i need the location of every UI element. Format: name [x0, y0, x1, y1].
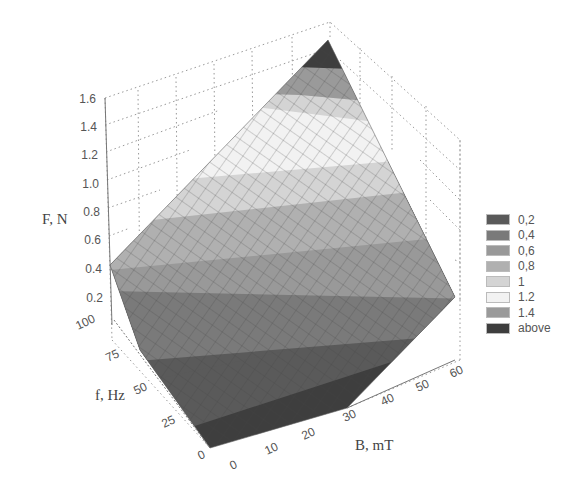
z-axis-title: F, N	[42, 211, 68, 227]
svg-text:0.8: 0.8	[83, 205, 100, 219]
svg-text:1.4: 1.4	[80, 120, 97, 134]
svg-text:10: 10	[262, 439, 280, 457]
legend-item: 1	[486, 274, 551, 290]
svg-text:100: 100	[73, 311, 97, 332]
legend-swatch	[486, 323, 510, 334]
svg-text:20: 20	[299, 424, 317, 442]
legend-swatch	[486, 245, 510, 256]
svg-text:1.6: 1.6	[79, 92, 96, 106]
svg-text:0.6: 0.6	[84, 233, 101, 247]
legend-swatch	[486, 230, 510, 241]
z-axis: 1.6 1.4 1.2 1.0 0.8 0.6 0.4 0.2 F, N	[42, 92, 112, 325]
y-axis-title: f, Hz	[95, 387, 125, 403]
svg-text:50: 50	[131, 379, 149, 397]
legend-swatch	[486, 261, 510, 272]
legend-item: above	[486, 321, 551, 337]
svg-text:50: 50	[413, 376, 431, 394]
legend-item: 1.4	[486, 305, 551, 321]
legend-swatch	[486, 307, 510, 318]
legend-item: 0,6	[486, 243, 551, 259]
svg-text:0.4: 0.4	[85, 262, 102, 276]
legend-item: 0,4	[486, 228, 551, 244]
x-axis-title: B, mT	[355, 437, 393, 453]
svg-text:25: 25	[159, 412, 177, 430]
legend-swatch	[486, 292, 510, 303]
svg-text:0.2: 0.2	[86, 291, 103, 305]
legend-item: 0,8	[486, 259, 551, 275]
svg-text:1.0: 1.0	[82, 177, 99, 191]
legend-item: 1.2	[486, 290, 551, 306]
legend: 0,2 0,4 0,6 0,8 1 1.2 1.4 above	[486, 212, 551, 336]
legend-swatch	[486, 214, 510, 225]
svg-text:1.2: 1.2	[81, 148, 98, 162]
svg-text:75: 75	[103, 346, 121, 364]
svg-text:0: 0	[227, 457, 239, 473]
svg-text:0: 0	[195, 447, 207, 463]
legend-item: 0,2	[486, 212, 551, 228]
svg-text:60: 60	[447, 362, 465, 380]
legend-swatch	[486, 276, 510, 287]
